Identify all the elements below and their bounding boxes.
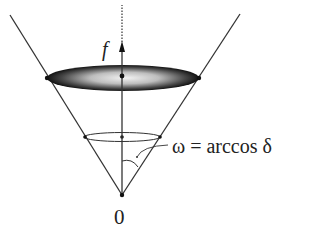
small-ellipse-point-right — [158, 135, 162, 139]
arrowhead-icon — [119, 41, 125, 52]
disk-center-point — [120, 74, 125, 79]
origin-label: 0 — [114, 205, 125, 229]
cone-diagram: f ω = arccos δ 0 — [0, 0, 331, 247]
vector-label-f: f — [102, 38, 110, 61]
origin-point — [120, 193, 124, 197]
cone-right-line — [122, 14, 240, 195]
angle-label: ω = arccos δ — [172, 135, 272, 157]
angle-leader-line — [137, 145, 168, 157]
leader-dot — [136, 156, 138, 158]
angle-arc — [122, 160, 138, 167]
small-ellipse-point-left — [83, 135, 87, 139]
disk-edge-point-right — [197, 76, 201, 80]
disk-edge-point-left — [45, 76, 49, 80]
